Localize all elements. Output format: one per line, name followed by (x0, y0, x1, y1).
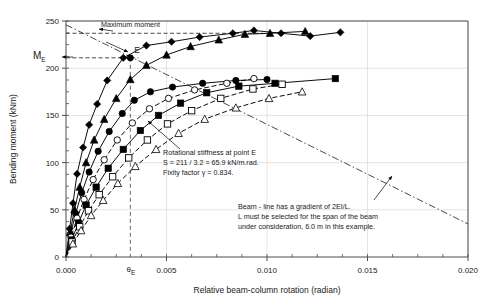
data-point-filled-diamond (86, 121, 93, 128)
theta-e-sub-text: E (131, 269, 136, 276)
y-tick-label: 250 (46, 17, 60, 26)
axis-ticks-layer: 0501001502002500.0000.0050.0100.0150.020 (46, 17, 479, 275)
data-point-open-square (250, 86, 256, 92)
data-point-filled-circle (106, 128, 112, 134)
data-point-filled-square (120, 146, 126, 152)
data-point-filled-square (105, 165, 111, 171)
y-axis-title: Bending moment (kNm) (8, 94, 18, 184)
data-point-open-circle (101, 157, 107, 163)
me-sub-text: E (41, 56, 46, 63)
chart-svg: 0501001502002500.0000.0050.0100.0150.020… (0, 0, 498, 306)
x-axis-title: Relative beam-column rotation (radian) (194, 285, 341, 295)
data-point-filled-square (93, 184, 99, 190)
me-arrow-left-head (62, 55, 66, 58)
data-point-filled-triangle (100, 115, 108, 122)
data-point-filled-diamond (143, 42, 150, 49)
data-point-open-square (279, 81, 285, 87)
stiffness-note-line-1: S = 211 / 3.2 = 65.9 kN/m.rad. (163, 158, 259, 167)
y-tick-label: 50 (50, 206, 59, 215)
data-point-filled-circle (86, 169, 92, 175)
point-e-label: E (134, 45, 140, 55)
data-point-filled-diamond (196, 33, 203, 40)
data-point-open-triangle (265, 94, 273, 101)
data-point-filled-circle (199, 80, 205, 86)
chart-figure: 0501001502002500.0000.0050.0100.0150.020… (0, 0, 498, 306)
beam-line-note-line-0: Beam - line has a gradient of 2EI/L. (238, 202, 351, 211)
data-point-open-triangle (132, 162, 140, 169)
data-point-open-triangle (175, 129, 183, 136)
data-point-filled-triangle (82, 159, 90, 166)
data-point-open-triangle (201, 115, 209, 122)
point-e-marker (127, 54, 134, 61)
data-point-open-circle (90, 176, 96, 182)
me-main-text: M (33, 50, 41, 61)
x-tick-label: 0.010 (257, 266, 278, 275)
data-point-filled-triangle (90, 136, 98, 143)
data-point-filled-square (332, 75, 338, 81)
x-tick-label: 0.015 (357, 266, 378, 275)
data-point-filled-circle (78, 190, 84, 196)
data-point-filled-diamond (79, 144, 86, 151)
data-point-filled-triangle (76, 183, 84, 190)
x-tick-label: 0.020 (458, 266, 479, 275)
data-point-open-circle (114, 137, 120, 143)
y-tick-label: 200 (46, 64, 60, 73)
data-point-filled-square (177, 100, 183, 106)
beam-line-note-line-1: L must be selected for the span of the b… (238, 212, 378, 221)
stiffness-note-line-2: Fixity factor γ = 0.834. (163, 168, 234, 177)
data-point-open-square (109, 174, 115, 180)
data-point-open-circle (191, 87, 197, 93)
x-tick-label: 0.005 (156, 266, 177, 275)
data-point-open-square (96, 191, 102, 197)
data-point-filled-diamond (94, 100, 101, 107)
data-point-open-circle (146, 106, 152, 112)
data-point-open-circle (165, 95, 171, 101)
x-tick-label: 0.000 (56, 266, 77, 275)
data-point-open-square (144, 137, 150, 143)
data-point-filled-diamond (120, 54, 127, 61)
data-point-filled-diamond (73, 170, 80, 177)
beam-line-note-line-2: under consideration, 6.0 m in this examp… (238, 222, 375, 231)
data-point-filled-triangle (163, 51, 171, 58)
data-point-open-square (164, 121, 170, 127)
data-point-filled-diamond (229, 30, 236, 37)
data-point-open-triangle (298, 88, 306, 95)
data-point-filled-triangle (143, 61, 151, 68)
data-point-filled-circle (131, 97, 137, 103)
data-point-filled-circle (147, 89, 153, 95)
data-point-filled-circle (264, 76, 270, 82)
y-tick-label: 150 (46, 111, 60, 120)
me-axis-label: ME (33, 50, 46, 63)
data-point-filled-square (137, 127, 143, 133)
data-point-open-square (126, 155, 132, 161)
data-point-filled-square (155, 112, 161, 118)
data-point-filled-circle (119, 110, 125, 116)
beam-line-note-leader (374, 176, 392, 200)
data-point-open-circle (251, 75, 257, 81)
stiffness-note-line-0: Rotational stiffness at point E (163, 148, 256, 157)
data-point-filled-circle (169, 84, 175, 90)
theta-e-axis-label: θE (127, 265, 136, 276)
data-point-filled-circle (95, 148, 101, 154)
data-point-filled-diamond (168, 38, 175, 45)
data-point-filled-triangle (301, 27, 309, 34)
y-tick-label: 0 (55, 253, 60, 262)
y-tick-label: 100 (46, 159, 60, 168)
data-point-filled-diamond (337, 29, 344, 36)
data-point-open-triangle (152, 145, 160, 152)
data-point-filled-diamond (104, 77, 111, 84)
maximum-moment-label: Maximum moment (101, 20, 160, 29)
data-point-filled-square (204, 90, 210, 96)
annotation-layer: Maximum momentERotational stiffness at p… (62, 20, 392, 231)
data-point-open-circle (224, 80, 230, 86)
beam-line-note-leader-head (388, 176, 392, 180)
data-point-open-square (188, 107, 194, 113)
data-point-open-square (218, 95, 224, 101)
data-point-filled-square (236, 83, 242, 89)
data-point-open-circle (129, 120, 135, 126)
